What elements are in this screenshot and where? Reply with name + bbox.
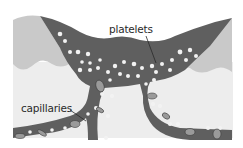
- label-platelets: platelets: [109, 23, 153, 35]
- blood-clot-diagram: platelets capillaries: [0, 0, 243, 148]
- label-capillaries: capillaries: [21, 102, 72, 114]
